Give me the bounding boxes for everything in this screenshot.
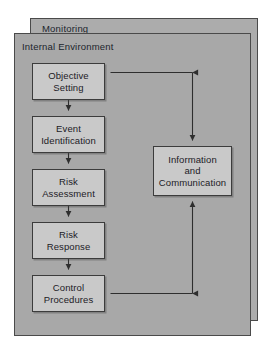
node-event-identification-line1: Event xyxy=(41,123,96,135)
node-information-line2: and xyxy=(159,165,226,177)
node-information-line1: Information xyxy=(159,154,226,166)
node-event-identification[interactable]: Event Identification xyxy=(32,116,105,153)
node-control-procedures-line2: Procedures xyxy=(44,294,94,306)
node-event-identification-line2: Identification xyxy=(41,135,96,147)
node-risk-response-line2: Response xyxy=(47,241,91,253)
node-risk-assessment-line2: Assessment xyxy=(42,188,95,200)
node-risk-assessment-line1: Risk xyxy=(42,176,95,188)
node-control-procedures[interactable]: Control Procedures xyxy=(32,275,105,312)
diagram-canvas: Monitoring Internal Environment xyxy=(0,0,278,358)
node-risk-assessment[interactable]: Risk Assessment xyxy=(32,169,105,206)
node-control-procedures-line1: Control xyxy=(44,282,94,294)
node-objective-setting-line2: Setting xyxy=(48,82,89,94)
node-objective-setting[interactable]: Objective Setting xyxy=(32,63,105,100)
node-information-and-communication[interactable]: Information and Communication xyxy=(153,146,232,196)
node-objective-setting-line1: Objective xyxy=(48,70,89,82)
panel-internal-environment-label: Internal Environment xyxy=(22,41,114,52)
node-risk-response-line1: Risk xyxy=(47,229,91,241)
node-risk-response[interactable]: Risk Response xyxy=(32,222,105,259)
node-information-line3: Communication xyxy=(159,177,226,189)
